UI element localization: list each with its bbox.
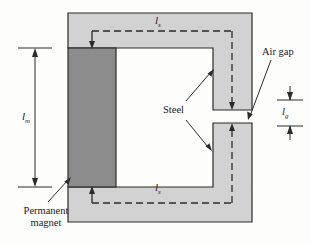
label-ls-bottom: ls [155,181,161,197]
label-lg-subscript: g [285,112,289,120]
label-steel: Steel [163,104,184,116]
label-lg: lg [282,105,289,121]
leader-line-steel-lower [186,120,208,147]
label-air-gap: Air gap [262,46,294,58]
label-permanent-magnet: Permanent magnet [4,205,88,229]
leader-line-air-gap [250,60,271,116]
leader-line-permanent-magnet [48,180,68,202]
dimension-lm-arrow-down [32,178,38,187]
label-lm-subscript: m [25,117,30,125]
label-ls-bottom-subscript: s [158,188,161,196]
label-permanent-magnet-line2: magnet [31,217,62,228]
leader-arrow-air-gap [247,112,252,120]
label-ls-top-subscript: s [158,21,161,29]
label-ls-top: ls [155,14,161,30]
dimension-lm-arrow-up [32,48,38,57]
leader-line-steel-upper [186,72,211,101]
permanent-magnet-block [68,48,116,187]
leader-arrow-steel-lower [206,143,212,151]
label-lm: lm [22,110,30,126]
label-permanent-magnet-line1: Permanent [24,205,69,216]
